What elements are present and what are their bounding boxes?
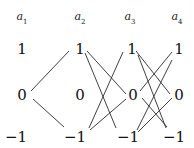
column-header-a3: a3: [124, 10, 135, 25]
edge-a3-1-to-a4-neg1: [138, 55, 166, 128]
edges-layer: [0, 0, 194, 148]
column-header-a2: a2: [74, 10, 85, 25]
edge-a2-1-to-a3-neg1: [85, 53, 116, 128]
node-a1-neg1: −1: [5, 128, 27, 146]
node-a4-0: 0: [174, 86, 184, 104]
header-subscript: 3: [131, 18, 135, 26]
node-a4-neg1: −1: [163, 128, 185, 146]
node-a2-1: 1: [75, 40, 85, 58]
node-a3-1: 1: [127, 40, 137, 58]
node-a4-1: 1: [174, 40, 184, 58]
edge-a3-1-to-a4-0: [136, 51, 170, 94]
node-a3-0: 0: [128, 86, 138, 104]
node-a2-neg1: −1: [64, 128, 86, 146]
transition-diagram: a1 a2 a3 a4 1 0 −1 1 0 −1 1 0 −1 1 0 −1: [0, 0, 194, 148]
node-a3-neg1: −1: [117, 128, 139, 146]
header-subscript: 4: [178, 18, 182, 26]
header-subscript: 2: [81, 18, 85, 26]
edge-a1-0-to-a2-neg1: [33, 99, 64, 127]
node-a1-1: 1: [17, 40, 27, 58]
node-a1-0: 0: [17, 86, 27, 104]
column-header-a4: a4: [171, 10, 182, 25]
edge-a3-neg1-to-a4-1: [137, 60, 172, 130]
column-header-a1: a1: [16, 10, 27, 25]
header-subscript: 1: [23, 18, 27, 26]
edge-a1-0-to-a2-1: [31, 51, 69, 91]
node-a2-0: 0: [75, 86, 85, 104]
